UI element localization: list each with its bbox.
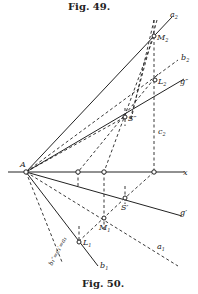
label-b1-c1-a1: b₁″=c₁′=a₁ [47, 235, 68, 266]
construction-L2-S [78, 74, 158, 172]
construction-x3-S1 [125, 172, 154, 198]
label-S-prime: S′ [121, 203, 128, 212]
descriptive-geometry-diagram: A x a2 M2 b2 L2 g″ S″ c2 S′ g′ M1 L1 a1 … [0, 0, 198, 294]
line-g-double-prime [26, 79, 184, 172]
point-S-prime [123, 196, 127, 200]
label-L1: L1 [82, 238, 92, 248]
line-b2 [26, 60, 178, 172]
point-A [24, 170, 28, 174]
label-S-double-prime: S″ [128, 114, 136, 123]
point-M2 [152, 34, 156, 38]
label-M2: M2 [156, 33, 168, 43]
label-b2: b2 [181, 53, 189, 63]
construction-M2-left [131, 20, 154, 120]
label-g-double-prime: g″ [180, 77, 188, 86]
label-A: A [19, 160, 26, 169]
point-x1 [76, 170, 80, 174]
point-x2 [102, 170, 106, 174]
label-b1: b1 [100, 261, 108, 271]
point-L1 [77, 240, 81, 244]
construction-A-S2 [26, 117, 125, 172]
construction-M2-S [104, 36, 154, 172]
figure-50-caption: Fig. 50. [82, 278, 124, 289]
point-x3 [152, 170, 156, 174]
point-S-double-prime [123, 115, 127, 119]
line-b1 [26, 172, 98, 266]
label-x: x [183, 168, 188, 177]
label-a2: a2 [170, 10, 178, 20]
point-M1 [102, 216, 106, 220]
label-g-prime: g′ [180, 208, 187, 217]
construction-M1-L1 [78, 198, 125, 242]
line-a2 [26, 17, 172, 172]
label-a1: a1 [157, 242, 165, 252]
label-M1: M1 [98, 223, 110, 233]
point-L2 [153, 78, 157, 82]
label-L2: L2 [157, 77, 167, 87]
label-c2: c2 [158, 127, 166, 137]
